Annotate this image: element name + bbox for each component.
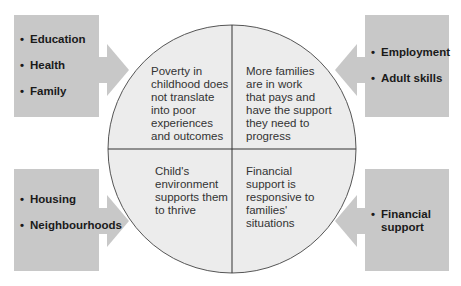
quadrant-bottom-left-text: Child's environment supports them to thr… xyxy=(155,165,228,217)
quadrant-bottom-right-text: Financial support is responsive to famil… xyxy=(246,165,314,230)
quadrant-circle xyxy=(0,0,461,286)
quadrant-top-left-text: Poverty in childhood does not translate … xyxy=(151,65,228,143)
quadrant-top-right-text: More families are in work that pays and … xyxy=(246,65,332,143)
